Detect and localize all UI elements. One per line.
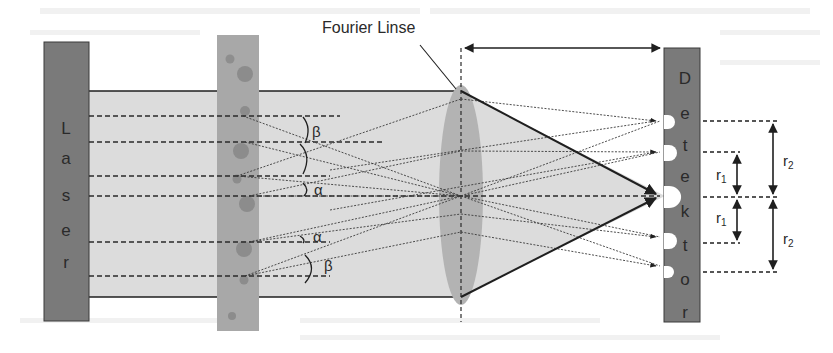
r1-bottom-label: r1 bbox=[716, 209, 727, 228]
particle bbox=[236, 241, 252, 257]
detector-letter: e bbox=[680, 167, 689, 186]
particle bbox=[228, 312, 236, 320]
detector-letter: o bbox=[680, 270, 689, 289]
r2-top-label: r2 bbox=[783, 152, 794, 171]
r1-top-label: r1 bbox=[716, 166, 727, 185]
fourier-lens-label: Fourier Linse bbox=[322, 19, 415, 36]
particle bbox=[239, 196, 255, 212]
radius-dimensions bbox=[703, 121, 777, 272]
angle-alpha-top: α bbox=[314, 181, 323, 198]
angle-beta-top: β bbox=[312, 123, 321, 140]
angle-beta-bottom: β bbox=[324, 257, 333, 274]
laser-letter: r bbox=[63, 253, 69, 272]
particle bbox=[240, 106, 250, 116]
laser-beam bbox=[89, 91, 665, 297]
laser-letter: L bbox=[61, 119, 70, 138]
particle bbox=[233, 143, 249, 159]
fourier-lens-diagram: L a s e r bbox=[0, 0, 833, 353]
particle bbox=[237, 66, 253, 82]
detector-letter: k bbox=[681, 202, 690, 221]
detector: D e t e k t o r bbox=[664, 48, 700, 322]
detector-letter: t bbox=[683, 236, 688, 255]
laser-letter: s bbox=[62, 186, 71, 205]
laser-letter: e bbox=[61, 221, 70, 240]
laser-source: L a s e r bbox=[44, 42, 89, 321]
detector-letter: e bbox=[680, 104, 689, 123]
detector-letter: r bbox=[682, 303, 688, 322]
angle-alpha-bottom: α bbox=[313, 228, 322, 245]
r2-bottom-label: r2 bbox=[783, 230, 794, 249]
laser-box bbox=[44, 42, 89, 321]
laser-letter: a bbox=[61, 149, 71, 168]
particle bbox=[240, 276, 249, 285]
fourier-lens-leader bbox=[420, 45, 456, 89]
particle bbox=[226, 55, 235, 64]
sample-cell bbox=[217, 35, 259, 331]
beam-body bbox=[89, 91, 665, 297]
detector-letter: D bbox=[679, 69, 691, 88]
detector-letter: t bbox=[683, 136, 688, 155]
